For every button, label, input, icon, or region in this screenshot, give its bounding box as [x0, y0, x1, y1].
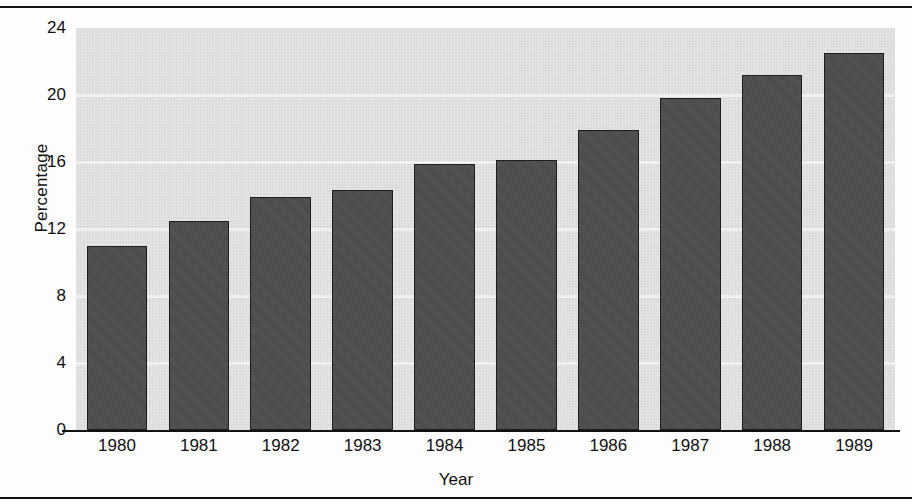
y-tick-label: 0: [22, 420, 66, 440]
bar: [414, 164, 475, 430]
top-divider-rule: [0, 6, 912, 8]
bar: [87, 246, 148, 430]
bar-texture: [661, 99, 720, 429]
y-tick-label: 4: [22, 353, 66, 373]
bar: [332, 190, 393, 430]
x-axis-label: Year: [0, 470, 912, 490]
x-tick-label: 1983: [344, 436, 382, 456]
bar: [250, 197, 311, 430]
bar: [660, 98, 721, 430]
bar-chart-figure: Percentage 04812162024 19801981198219831…: [0, 0, 912, 504]
x-tick-label: 1984: [426, 436, 464, 456]
x-tick-label: 1980: [98, 436, 136, 456]
bar-texture: [415, 165, 474, 429]
bar: [742, 75, 803, 430]
x-tick-label: 1981: [180, 436, 218, 456]
bar-texture: [251, 198, 310, 429]
y-tick-label: 12: [22, 219, 66, 239]
y-tick-label: 24: [22, 18, 66, 38]
y-tick-label: 8: [22, 286, 66, 306]
bar-texture: [579, 131, 638, 429]
x-tick-label: 1982: [262, 436, 300, 456]
bar-texture: [743, 76, 802, 429]
x-axis-line: [62, 430, 900, 432]
bar-texture: [170, 222, 229, 429]
bar-texture: [88, 247, 147, 429]
y-tick-label: 20: [22, 85, 66, 105]
bottom-divider-rule: [0, 497, 912, 499]
x-tick-label: 1985: [508, 436, 546, 456]
bar-texture: [825, 54, 884, 429]
x-tick-label: 1987: [671, 436, 709, 456]
x-tick-label: 1988: [753, 436, 791, 456]
x-tick-label: 1989: [835, 436, 873, 456]
bar-texture: [333, 191, 392, 429]
bar: [824, 53, 885, 430]
y-tick-label: 16: [22, 152, 66, 172]
bar: [496, 160, 557, 430]
x-tick-label: 1986: [589, 436, 627, 456]
bar: [578, 130, 639, 430]
plot-area: [76, 28, 895, 430]
bar: [169, 221, 230, 430]
bar-texture: [497, 161, 556, 429]
